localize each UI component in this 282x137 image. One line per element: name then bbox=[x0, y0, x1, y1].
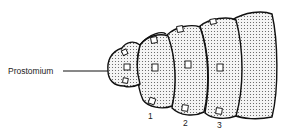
seta-ventral bbox=[123, 78, 129, 84]
seta-ventral bbox=[182, 105, 189, 112]
seta-lateral bbox=[185, 61, 191, 68]
seta-dorsal bbox=[151, 37, 158, 44]
seta-dorsal bbox=[210, 19, 217, 25]
seta-dorsal bbox=[177, 26, 184, 33]
segment-label-2: 2 bbox=[183, 119, 188, 128]
seta-lateral bbox=[217, 64, 223, 71]
segment-label-1: 1 bbox=[148, 112, 153, 121]
prostomium-label: Prostomium bbox=[8, 67, 53, 76]
seta-lateral bbox=[152, 64, 158, 71]
segment-1 bbox=[137, 35, 175, 108]
seta-lateral bbox=[124, 64, 130, 70]
segment-label-3: 3 bbox=[217, 121, 222, 130]
seta-ventral bbox=[216, 108, 223, 115]
seta-ventral bbox=[148, 97, 156, 105]
